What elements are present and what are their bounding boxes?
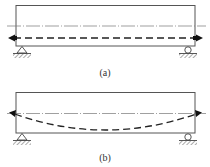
beam-b [16,93,195,134]
anchor-left-a [13,36,17,40]
prestress-arrow-right-a-icon [196,35,203,42]
roller-support-a-icon [179,47,197,58]
panel-b: (b) [7,93,206,165]
pin-support-a-icon [13,47,31,59]
prestressed-beam-diagram: (a) (b) [0,0,210,167]
panel-label-b: (b) [99,152,111,164]
tendon-parabolic-b [15,114,196,130]
panel-a: (a) [7,6,206,80]
pin-support-b-icon [13,134,31,146]
panel-label-a: (a) [99,67,110,79]
anchor-right-a [193,36,197,40]
roller-support-b-icon [179,134,197,145]
